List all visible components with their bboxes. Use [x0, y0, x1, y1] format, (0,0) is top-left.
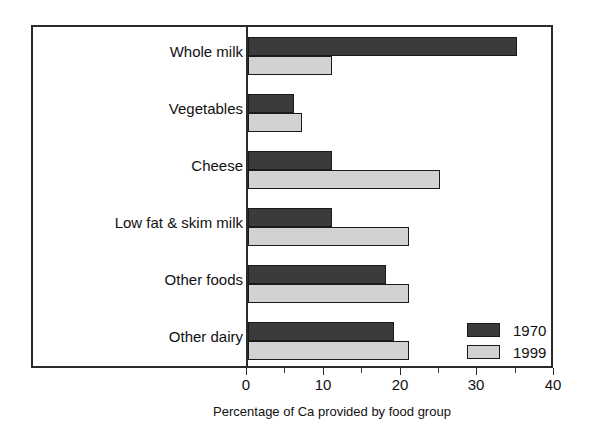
category-label: Whole milk — [170, 44, 243, 59]
legend-swatch-icon — [467, 345, 500, 359]
bar-1999-5 — [248, 341, 409, 360]
category-label: Low fat & skim milk — [115, 215, 243, 230]
x-tick-minor — [515, 368, 516, 373]
x-tick-label: 0 — [226, 377, 266, 393]
bar-1970-2 — [248, 151, 332, 170]
legend-item: 1970 — [467, 319, 571, 341]
chart-legend: 19701999 — [467, 319, 571, 363]
bar-1970-4 — [248, 265, 386, 284]
bar-1999-3 — [248, 227, 409, 246]
x-tick-label: 10 — [303, 377, 343, 393]
x-tick-label: 20 — [380, 377, 420, 393]
bar-1999-4 — [248, 284, 409, 303]
x-tick-major — [323, 368, 324, 375]
bar-1970-3 — [248, 208, 332, 227]
chart-figure: Whole milkVegetablesCheeseLow fat & skim… — [0, 0, 592, 445]
bar-1970-1 — [248, 94, 294, 113]
x-tick-major — [476, 368, 477, 375]
x-tick-major — [553, 368, 554, 375]
bar-1999-0 — [248, 56, 332, 75]
category-label: Other foods — [165, 272, 243, 287]
x-tick-major — [246, 368, 247, 375]
category-labels: Whole milkVegetablesCheeseLow fat & skim… — [43, 27, 243, 368]
x-axis-title: Percentage of Ca provided by food group — [213, 404, 451, 419]
category-label: Other dairy — [169, 329, 243, 344]
legend-item: 1999 — [467, 341, 571, 363]
x-tick-major — [400, 368, 401, 375]
x-tick-label: 40 — [533, 377, 573, 393]
x-axis-title-wrap: Percentage of Ca provided by food group — [0, 404, 592, 419]
bar-1970-0 — [248, 37, 517, 56]
x-axis: 010203040 Percentage of Ca provided by f… — [0, 368, 592, 445]
plot-area: Whole milkVegetablesCheeseLow fat & skim… — [31, 25, 553, 368]
category-label: Vegetables — [169, 101, 243, 116]
x-tick-minor — [438, 368, 439, 373]
legend-label: 1999 — [513, 345, 546, 360]
x-tick-minor — [284, 368, 285, 373]
value-axis-zero-line — [246, 27, 248, 368]
category-label: Cheese — [191, 158, 243, 173]
bar-1999-2 — [248, 170, 440, 189]
x-tick-minor — [361, 368, 362, 373]
bar-1970-5 — [248, 322, 394, 341]
legend-swatch-icon — [467, 323, 500, 337]
x-tick-label: 30 — [456, 377, 496, 393]
legend-label: 1970 — [513, 323, 546, 338]
bar-1999-1 — [248, 113, 302, 132]
